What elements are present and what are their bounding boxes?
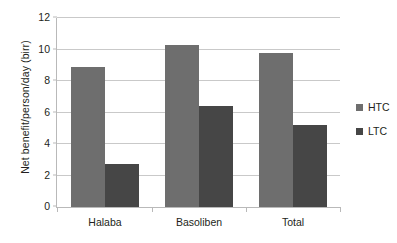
bar-total-htc — [259, 53, 293, 207]
bar-halaba-ltc — [105, 164, 139, 207]
bar-groups: HalabaBasolibenTotal — [58, 18, 340, 207]
x-axis-tick-mark — [246, 207, 247, 212]
bars — [246, 18, 340, 207]
legend-item: HTC — [356, 101, 390, 113]
y-axis-tick-mark — [53, 111, 57, 112]
bar-group: Total — [246, 18, 340, 207]
y-axis-title: Net benefit/person/day (birr) — [19, 12, 31, 202]
legend-swatch-icon — [356, 128, 363, 135]
bar-basoliben-ltc — [199, 106, 233, 207]
y-axis-tick-label: 6 — [44, 106, 50, 118]
plot-area: 024681012 HalabaBasolibenTotal — [56, 18, 340, 208]
y-axis-tick-label: 10 — [38, 43, 50, 55]
y-axis-tick-mark — [53, 48, 57, 49]
y-axis-tick-mark — [53, 143, 57, 144]
bars — [152, 18, 246, 207]
x-axis-tick-label: Basoliben — [152, 216, 246, 228]
y-axis-tick-mark — [53, 80, 57, 81]
legend-swatch-icon — [356, 104, 363, 111]
y-axis-tick-label: 12 — [38, 11, 50, 23]
y-axis-tick-label: 0 — [44, 200, 50, 212]
y-axis-tick-label: 8 — [44, 74, 50, 86]
y-axis-tick-label: 4 — [44, 137, 50, 149]
x-axis-tick-label: Total — [246, 216, 340, 228]
legend-item: LTC — [356, 125, 390, 137]
y-axis-tick-mark — [53, 17, 57, 18]
bars — [58, 18, 152, 207]
bar-chart: Net benefit/person/day (birr) 024681012 … — [0, 0, 397, 243]
bar-group: Basoliben — [152, 18, 246, 207]
x-axis-tick-mark — [57, 207, 58, 212]
y-axis-tick-mark — [53, 174, 57, 175]
bar-halaba-htc — [71, 67, 105, 207]
chart-legend: HTC LTC — [356, 101, 390, 137]
bar-basoliben-htc — [165, 45, 199, 207]
bar-group: Halaba — [58, 18, 152, 207]
y-axis-tick-label: 2 — [44, 169, 50, 181]
bar-total-ltc — [293, 125, 327, 207]
x-axis-tick-mark — [152, 207, 153, 212]
legend-label: HTC — [368, 101, 390, 113]
x-axis-tick-label: Halaba — [58, 216, 152, 228]
x-axis-tick-mark — [340, 207, 341, 212]
legend-label: LTC — [368, 125, 387, 137]
